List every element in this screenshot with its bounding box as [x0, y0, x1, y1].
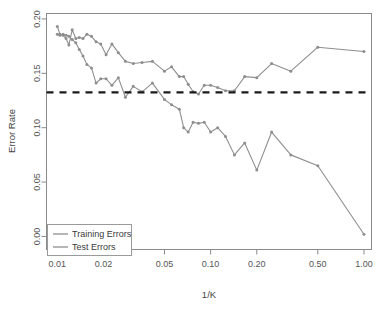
data-point	[203, 121, 206, 124]
data-point	[110, 84, 113, 87]
data-point	[81, 37, 84, 40]
data-point	[105, 77, 108, 80]
data-point	[78, 36, 81, 39]
data-point	[224, 135, 227, 138]
data-point	[362, 233, 365, 236]
data-point	[65, 34, 68, 37]
data-point	[178, 108, 181, 111]
data-point	[163, 70, 166, 73]
data-point	[178, 75, 181, 78]
data-point	[255, 76, 258, 79]
data-point	[209, 131, 212, 134]
data-point	[187, 83, 190, 86]
data-point	[197, 122, 200, 125]
data-point	[124, 96, 127, 99]
data-point	[67, 44, 70, 47]
data-point	[182, 75, 185, 78]
data-point	[270, 62, 273, 65]
data-point	[216, 86, 219, 89]
x-tick-label: 1.00	[355, 259, 373, 269]
x-tick-label: 0.50	[309, 259, 327, 269]
data-point	[110, 42, 113, 45]
data-point	[105, 53, 108, 56]
knn-error-rate-chart: 0.000.050.100.150.20 0.010.020.050.100.2…	[0, 0, 382, 310]
data-point	[289, 70, 292, 73]
data-point	[209, 84, 212, 87]
data-point	[90, 35, 93, 38]
data-point	[187, 131, 190, 134]
x-tick-label: 0.10	[202, 259, 220, 269]
data-point	[65, 37, 68, 40]
data-point	[74, 37, 77, 40]
data-point	[197, 92, 200, 95]
x-tick-label: 0.02	[95, 259, 113, 269]
data-point	[99, 77, 102, 80]
data-point	[117, 76, 120, 79]
data-point	[56, 25, 59, 28]
data-point	[243, 141, 246, 144]
y-axis-title: Error Rate	[6, 109, 17, 153]
data-point	[163, 98, 166, 101]
chart-legend: Training Errors Test Errors	[48, 225, 132, 256]
data-point	[224, 89, 227, 92]
chart-canvas: 0.000.050.100.150.20 0.010.020.050.100.2…	[0, 0, 382, 310]
y-tick-label: 0.05	[32, 173, 42, 191]
y-tick-label: 0.00	[32, 228, 42, 246]
data-point	[90, 66, 93, 69]
data-point	[243, 75, 246, 78]
data-point	[141, 61, 144, 64]
data-point	[270, 131, 273, 134]
data-point	[132, 62, 135, 65]
x-axis-title: 1/K	[202, 289, 217, 300]
data-point	[362, 50, 365, 53]
data-point	[203, 84, 206, 87]
data-point	[71, 38, 74, 41]
data-point	[117, 51, 120, 54]
x-tick-label: 0.05	[156, 259, 174, 269]
data-point	[62, 34, 65, 37]
data-point	[58, 33, 61, 36]
data-point	[74, 41, 77, 44]
legend-label-test-errors: Test Errors	[72, 242, 116, 252]
data-point	[182, 126, 185, 129]
data-point	[151, 60, 154, 63]
data-point	[124, 60, 127, 63]
x-tick-label: 0.20	[248, 259, 266, 269]
data-point	[316, 164, 319, 167]
data-point	[170, 65, 173, 68]
data-point	[56, 33, 59, 36]
data-point	[233, 153, 236, 156]
data-point	[85, 63, 88, 66]
data-point	[81, 54, 84, 57]
legend-label-training-errors: Training Errors	[72, 229, 132, 239]
data-point	[151, 82, 154, 85]
data-point	[95, 40, 98, 43]
x-tick-label: 0.01	[49, 259, 67, 269]
data-point	[99, 42, 102, 45]
y-tick-label: 0.10	[32, 119, 42, 137]
y-tick-label: 0.20	[32, 10, 42, 28]
data-point	[71, 28, 74, 31]
data-point	[67, 35, 70, 38]
data-point	[78, 48, 81, 51]
data-point	[192, 121, 195, 124]
data-point	[85, 33, 88, 36]
y-tick-label: 0.15	[32, 65, 42, 83]
data-point	[255, 169, 258, 172]
data-point	[289, 153, 292, 156]
data-point	[132, 85, 135, 88]
data-point	[95, 82, 98, 85]
data-point	[216, 126, 219, 129]
data-point	[170, 103, 173, 106]
data-point	[316, 46, 319, 49]
